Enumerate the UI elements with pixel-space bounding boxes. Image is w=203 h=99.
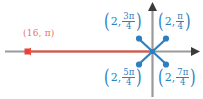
theta-fraction: 3π4 — [122, 12, 135, 31]
comma: , — [118, 72, 122, 83]
horizontal-axis-arrowhead-icon — [191, 47, 200, 56]
fraction-numerator: π — [176, 12, 184, 21]
red-point-label: (16, π) — [23, 29, 55, 38]
blue-point-marker-pi-4 — [163, 35, 169, 41]
close-paren: ) — [190, 69, 196, 86]
blue-ray-lower-left — [139, 52, 153, 65]
r-value: 2 — [111, 72, 118, 83]
theta-fraction: 7π4 — [176, 68, 189, 87]
close-paren: ) — [185, 13, 191, 30]
r-value: 2 — [165, 16, 172, 27]
blue-point-label-5pi-4: (2,5π4) — [103, 68, 143, 87]
comma: , — [172, 16, 176, 27]
theta-fraction: 5π4 — [122, 68, 135, 87]
polar-plot-figure: (16, π) (2,3π4) (2,π4) (2,5π4) (2,7π4) — [0, 0, 203, 99]
blue-point-marker-3pi-4 — [136, 35, 142, 41]
fraction-denominator: 4 — [176, 21, 184, 31]
fraction-denominator: 4 — [176, 77, 189, 87]
fraction-numerator: 5π — [122, 68, 135, 77]
comma: , — [172, 72, 176, 83]
red-point-marker — [25, 49, 30, 55]
blue-ray-upper-left — [139, 39, 153, 52]
blue-point-marker-7pi-4 — [163, 61, 169, 67]
open-paren: ( — [104, 13, 110, 30]
close-paren: ) — [136, 69, 142, 86]
blue-ray-lower-right — [153, 52, 167, 65]
r-value: 2 — [111, 16, 118, 27]
open-paren: ( — [158, 13, 164, 30]
open-paren: ( — [158, 69, 164, 86]
fraction-numerator: 3π — [122, 12, 135, 21]
open-paren: ( — [104, 69, 110, 86]
blue-point-label-7pi-4: (2,7π4) — [157, 68, 197, 87]
theta-fraction: π4 — [176, 12, 184, 31]
origin-pole-marker — [150, 49, 155, 54]
fraction-denominator: 4 — [122, 21, 135, 31]
blue-ray-upper-right — [153, 39, 167, 52]
fraction-denominator: 4 — [122, 77, 135, 87]
blue-point-label-3pi-4: (2,3π4) — [103, 12, 143, 31]
comma: , — [118, 16, 122, 27]
fraction-numerator: 7π — [176, 68, 189, 77]
r-value: 2 — [165, 72, 172, 83]
vertical-axis-arrowhead-icon — [148, 2, 157, 11]
blue-point-label-pi-4: (2,π4) — [157, 12, 192, 31]
close-paren: ) — [136, 13, 142, 30]
